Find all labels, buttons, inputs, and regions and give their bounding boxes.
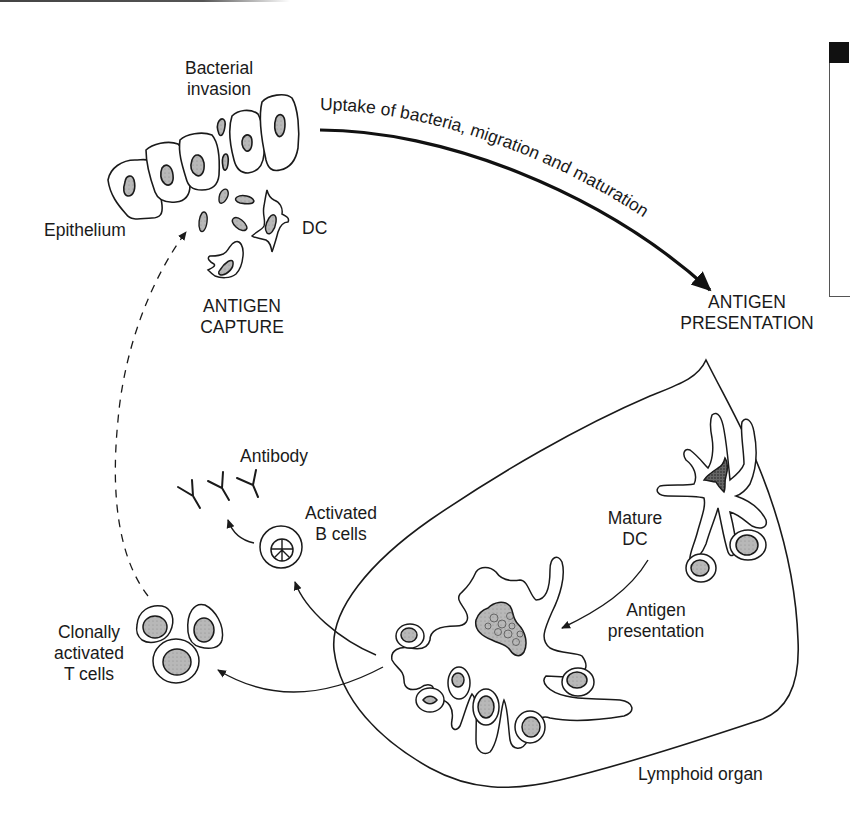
label-line: Activated (296, 503, 386, 524)
label-antibody: Antibody (240, 446, 308, 467)
side-panel-header (829, 42, 849, 63)
label-lymphoid-organ: Lymphoid organ (638, 764, 763, 785)
label-antigen-presentation: Antigen presentation (596, 600, 716, 642)
label-line: Clonally (44, 622, 134, 643)
side-panel-clipped (829, 42, 850, 297)
label-uptake-arrow: Uptake of bacteria, migration and matura… (320, 94, 653, 221)
label-line: DC (600, 529, 670, 550)
label-line: B cells (296, 524, 386, 545)
label-line: Antigen (596, 600, 716, 621)
label-line: presentation (596, 621, 716, 642)
label-line: PRESENTATION (672, 313, 822, 334)
label-antigen-presentation-title: ANTIGEN PRESENTATION (672, 292, 822, 334)
label-line: activated (44, 643, 134, 664)
label-mature-dc: Mature DC (600, 508, 670, 550)
label-clonal-t-cells: Clonally activated T cells (44, 622, 134, 685)
label-line: Mature (600, 508, 670, 529)
label-activated-b-cells: Activated B cells (296, 503, 386, 545)
label-line: T cells (44, 664, 134, 685)
label-line: ANTIGEN (672, 292, 822, 313)
